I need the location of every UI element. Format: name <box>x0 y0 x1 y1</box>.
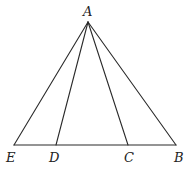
label-D: D <box>48 150 60 165</box>
segment-AB <box>88 22 176 145</box>
segment-AE <box>14 22 88 145</box>
label-C: C <box>124 150 134 165</box>
point-labels: A E D C B <box>5 4 184 165</box>
segment-AD <box>56 22 88 145</box>
clipped-caption-fragment: ​ <box>0 167 187 173</box>
triangle-diagram: A E D C B <box>0 0 187 173</box>
clipped-caption-text: ​ <box>24 167 187 173</box>
label-A: A <box>82 4 92 19</box>
label-B: B <box>173 150 184 165</box>
segments <box>14 22 176 145</box>
segment-AC <box>88 22 128 145</box>
label-E: E <box>5 150 16 165</box>
